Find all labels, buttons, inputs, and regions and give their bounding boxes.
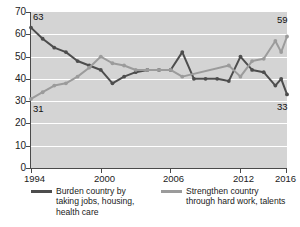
legend-item-burden[interactable]: Burden country by taking jobs, housing, …: [31, 186, 143, 217]
value-label-start-burden: 63: [33, 12, 44, 22]
x-axis-line: [30, 168, 287, 169]
data-point-burden: [111, 81, 115, 85]
y-label-70: 70: [2, 7, 26, 17]
data-point-burden: [52, 46, 56, 50]
value-label-end-strengthen: 59: [277, 15, 288, 25]
legend-swatch-burden-icon: [31, 190, 52, 193]
legend-swatch-strengthen-icon: [161, 190, 182, 193]
data-point-strengthen: [41, 90, 45, 94]
data-point-burden: [76, 59, 80, 63]
legend-item-strengthen[interactable]: Strengthen country through hard work, ta…: [161, 186, 286, 207]
data-point-burden: [250, 68, 254, 72]
series-plot: [31, 12, 287, 168]
data-point-burden: [215, 77, 219, 81]
data-point-strengthen: [227, 64, 231, 68]
data-point-strengthen: [157, 68, 161, 72]
data-point-strengthen: [273, 39, 277, 43]
data-point-burden: [41, 37, 45, 41]
y-label-0: 0: [2, 163, 26, 173]
legend-label-strengthen: Strengthen country through hard work, ta…: [186, 186, 286, 207]
x-label-2012: 2012: [233, 174, 254, 184]
data-point-burden: [285, 93, 289, 97]
data-point-burden: [262, 70, 266, 74]
value-label-start-strengthen: 31: [33, 104, 44, 114]
data-point-burden: [64, 50, 68, 54]
y-label-30: 30: [2, 96, 26, 106]
data-point-strengthen: [87, 66, 91, 70]
data-point-burden: [239, 55, 243, 59]
data-point-strengthen: [145, 68, 149, 72]
series-line-strengthen: [31, 37, 287, 99]
y-label-50: 50: [2, 52, 26, 62]
x-label-2006: 2006: [163, 174, 184, 184]
data-point-strengthen: [250, 59, 254, 63]
data-point-strengthen: [76, 75, 80, 79]
data-point-strengthen: [29, 97, 33, 101]
data-point-burden: [204, 77, 208, 81]
data-point-strengthen: [122, 64, 126, 68]
y-label-20: 20: [2, 118, 26, 128]
data-point-strengthen: [111, 61, 115, 65]
chart-legend: Burden country by taking jobs, housing, …: [0, 186, 300, 227]
data-point-strengthen: [169, 68, 173, 72]
data-point-strengthen: [64, 81, 68, 85]
x-label-2016: 2016: [275, 174, 296, 184]
x-label-2000: 2000: [94, 174, 115, 184]
data-point-burden: [227, 79, 231, 83]
data-point-strengthen: [262, 57, 266, 61]
data-point-strengthen: [99, 55, 103, 59]
data-point-burden: [279, 77, 283, 81]
y-label-10: 10: [2, 141, 26, 151]
chart-container: 70 60 50 40 30 20 10 0 1994 2000 2006 20…: [0, 0, 300, 227]
data-point-strengthen: [279, 50, 283, 54]
data-point-strengthen: [52, 84, 56, 88]
data-point-strengthen: [285, 35, 289, 39]
data-point-strengthen: [134, 68, 138, 72]
series-line-burden: [31, 28, 287, 95]
data-point-burden: [99, 68, 103, 72]
legend-label-burden: Burden country by taking jobs, housing, …: [56, 186, 143, 217]
value-label-end-burden: 33: [277, 102, 288, 112]
y-label-40: 40: [2, 74, 26, 84]
data-point-burden: [122, 75, 126, 79]
data-point-strengthen: [180, 75, 184, 79]
data-point-burden: [29, 26, 33, 30]
data-point-strengthen: [239, 75, 243, 79]
data-point-burden: [192, 77, 196, 81]
chart-title: [70, 0, 290, 4]
data-point-burden: [273, 84, 277, 88]
y-label-60: 60: [2, 29, 26, 39]
data-point-burden: [180, 50, 184, 54]
x-label-1994: 1994: [24, 174, 45, 184]
y-axis-labels: 70 60 50 40 30 20 10 0: [0, 0, 26, 180]
